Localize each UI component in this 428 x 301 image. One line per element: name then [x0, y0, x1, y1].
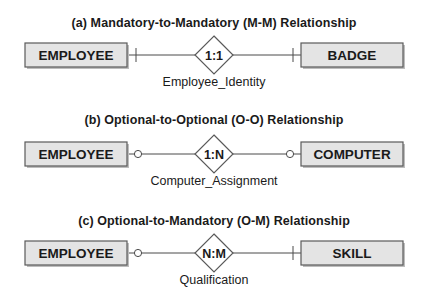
diagram-b: (b) Optional-to-Optional (O-O) Relations…	[0, 99, 428, 199]
relationship-name: Qualification	[0, 273, 428, 287]
right-marker	[286, 150, 293, 157]
entity-label: COMPUTER	[313, 147, 391, 162]
relationship-name: Computer_Assignment	[0, 174, 428, 188]
relationship-name: Employee_Identity	[0, 75, 428, 89]
cardinality-label: 1:1	[205, 49, 223, 63]
entity-label: BADGE	[328, 48, 377, 63]
entity-label: SKILL	[333, 246, 372, 261]
diagram-a: (a) Mandatory-to-Mandatory (M-M) Relatio…	[0, 0, 428, 100]
entity-label: EMPLOYEE	[38, 48, 113, 63]
entity-label: EMPLOYEE	[38, 246, 113, 261]
cardinality-label: N:M	[202, 247, 226, 261]
optional-circle-icon	[134, 150, 141, 157]
cardinality-label: 1:N	[204, 148, 224, 162]
entity-label: EMPLOYEE	[38, 147, 113, 162]
optional-circle-icon	[134, 249, 141, 256]
diagram-c: (c) Optional-to-Mandatory (O-M) Relation…	[0, 198, 428, 298]
left-marker	[134, 249, 141, 256]
optional-circle-icon	[286, 150, 293, 157]
left-marker	[134, 150, 141, 157]
